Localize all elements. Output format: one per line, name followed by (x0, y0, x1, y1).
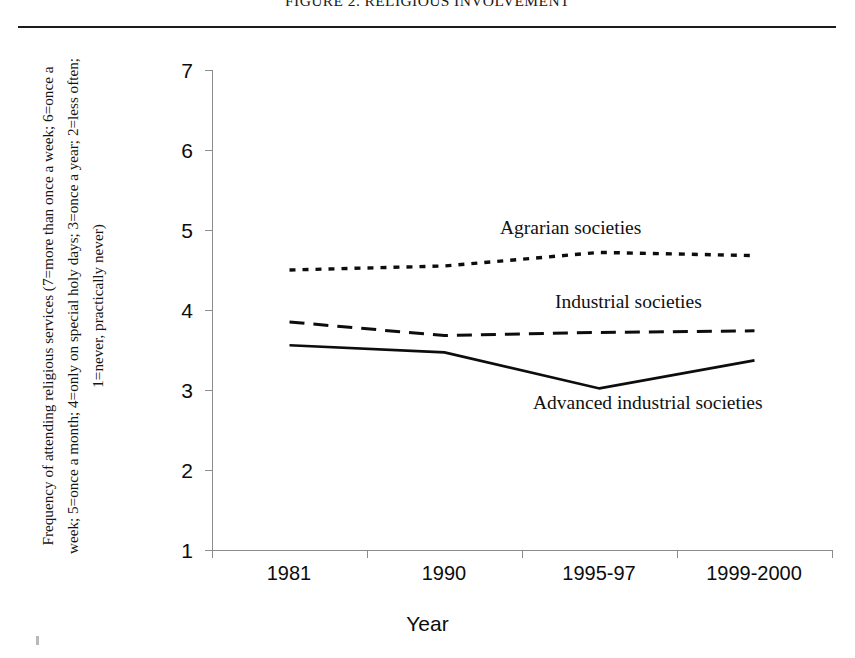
y-tick-4: 4 (205, 310, 212, 311)
x-tick-label-1981: 1981 (267, 562, 312, 585)
y-tick-label-1: 1 (181, 539, 193, 563)
series-line-industrial (290, 322, 755, 336)
x-tick-1 (367, 550, 368, 558)
figure-canvas: FIGURE 2. RELIGIOUS INVOLVEMENT Frequenc… (0, 0, 855, 658)
series-line-advanced (290, 345, 755, 388)
x-tick-label-1999-2000: 1999-2000 (706, 562, 802, 585)
y-tick-label-2: 2 (181, 459, 193, 483)
y-tick-7: 7 (205, 70, 212, 71)
x-tick-4 (832, 550, 833, 558)
annotation-agrarian-societies: Agrarian societies (500, 217, 641, 239)
x-tick-2 (522, 550, 523, 558)
y-tick-label-5: 5 (181, 219, 193, 243)
y-axis-caption-container: Frequency of attending religious service… (14, 48, 130, 564)
x-tick-0 (212, 550, 213, 558)
plot-area: 7 6 5 4 3 2 1 1981 1990 1995-97 1999-200… (212, 70, 832, 550)
y-tick-2: 2 (205, 470, 212, 471)
page-speck (36, 636, 39, 645)
y-tick-label-3: 3 (181, 379, 193, 403)
figure-title: FIGURE 2. RELIGIOUS INVOLVEMENT (0, 0, 855, 10)
header-rule (18, 26, 836, 28)
series-lines (212, 70, 832, 550)
y-tick-label-7: 7 (181, 59, 193, 83)
y-tick-1: 1 (205, 550, 212, 551)
x-tick-label-1990: 1990 (422, 562, 467, 585)
y-tick-label-4: 4 (181, 299, 193, 323)
x-tick-label-1995-97: 1995-97 (562, 562, 635, 585)
series-line-agrarian (290, 252, 755, 270)
y-axis-caption: Frequency of attending religious service… (35, 53, 110, 559)
y-tick-3: 3 (205, 390, 212, 391)
annotation-advanced-industrial-societies: Advanced industrial societies (533, 392, 763, 414)
y-tick-5: 5 (205, 230, 212, 231)
x-axis-title: Year (0, 612, 855, 636)
y-tick-label-6: 6 (181, 139, 193, 163)
x-tick-3 (677, 550, 678, 558)
y-tick-6: 6 (205, 150, 212, 151)
annotation-industrial-societies: Industrial societies (555, 291, 702, 313)
